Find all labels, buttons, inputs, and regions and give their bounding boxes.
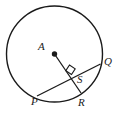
center-point-dot [52,51,57,56]
label-point-q: Q [104,56,112,67]
label-point-r: R [78,97,85,108]
label-point-p: P [31,96,38,107]
geometry-figure: A Q S P R [0,0,117,113]
geometry-canvas [0,0,117,113]
label-point-s: S [77,74,83,85]
chord-PQ-line [37,64,101,96]
label-point-a: A [38,41,45,52]
